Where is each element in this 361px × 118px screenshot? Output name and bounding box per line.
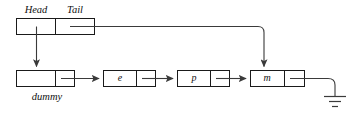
head-field-label: Head bbox=[24, 4, 48, 15]
diagram-canvas: Head Tail dummy e p bbox=[0, 0, 361, 118]
linked-list-diagram: Head Tail dummy e p bbox=[0, 0, 361, 118]
node-p-value: p bbox=[191, 72, 197, 83]
null-ground-icon bbox=[324, 97, 346, 107]
node-m-value: m bbox=[263, 72, 270, 83]
pointer-tail-to-m bbox=[70, 27, 264, 67]
tail-field-label: Tail bbox=[67, 4, 83, 15]
node-dummy-caption: dummy bbox=[32, 91, 63, 102]
node-e-value: e bbox=[118, 72, 123, 83]
